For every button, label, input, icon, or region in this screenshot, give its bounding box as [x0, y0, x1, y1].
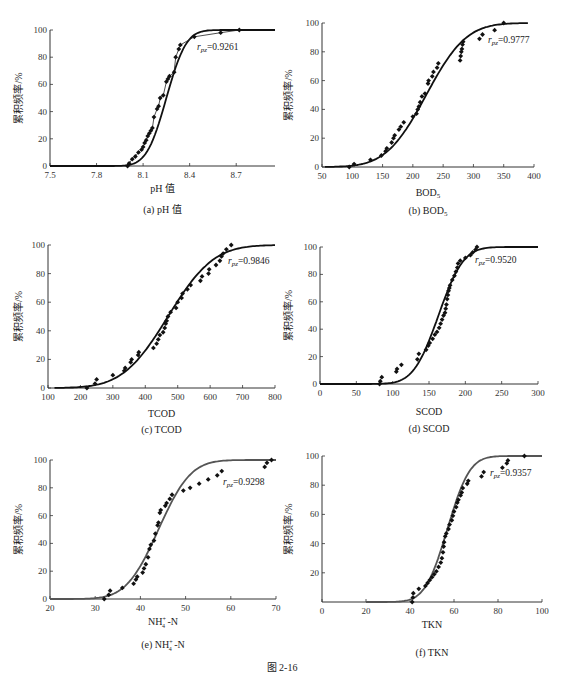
data-point-diamond-icon [214, 263, 219, 268]
data-point-diamond-icon [444, 302, 449, 307]
x-axis-label: BOD5 [416, 187, 441, 200]
y-tick-label: 20 [38, 566, 48, 576]
correlation-annotation: rpz=0.9777 [488, 35, 530, 47]
data-point-diamond-icon [94, 377, 99, 382]
data-point-diamond-icon [440, 556, 445, 561]
x-tick-label: 700 [236, 392, 250, 402]
data-point-diamond-icon [198, 278, 203, 283]
y-tick-label: 100 [306, 451, 320, 461]
data-point-diamond-icon [440, 317, 445, 322]
y-tick-label: 0 [313, 379, 318, 389]
x-tick-label: 60 [450, 606, 460, 616]
data-point-diamond-icon [110, 373, 115, 378]
data-point-diamond-icon [229, 243, 234, 248]
figure-canvas: 0204060801007.57.88.18.48.7rpz=0.9261累积频… [0, 0, 564, 688]
correlation-annotation: rpz=0.9298 [223, 477, 265, 489]
x-tick-label: 200 [406, 171, 420, 181]
y-tick-label: 40 [308, 324, 318, 334]
x-tick-label: 40 [136, 603, 146, 613]
x-tick-label: 100 [41, 392, 55, 402]
y-tick-label: 20 [36, 354, 46, 364]
data-point-diamond-icon [219, 469, 224, 474]
chart-panel-f: 20406080100020406080100rpz=0.9357累积频率/%T… [282, 451, 549, 659]
y-axis-label: 累积频率/% [282, 290, 294, 341]
x-tick-label: 500 [171, 392, 185, 402]
x-tick-label: 50 [181, 603, 191, 613]
fitted-cdf-curve [320, 247, 538, 384]
x-tick-label: 100 [535, 606, 549, 616]
x-tick-label: 40 [406, 606, 416, 616]
panel-caption: (f) TKN [416, 647, 449, 659]
y-tick-label: 80 [308, 269, 318, 279]
x-axis-label: TCOD [148, 408, 175, 419]
data-point-diamond-icon [443, 306, 448, 311]
x-tick-label: 100 [346, 171, 360, 181]
chart-panel-c: 020406080100100200300400500600700800rpz=… [12, 240, 282, 436]
data-point-diamond-icon [435, 65, 440, 70]
data-point-diamond-icon [389, 140, 394, 145]
y-tick-label: 100 [34, 25, 48, 35]
y-tick-label: 40 [310, 104, 320, 114]
y-axis-label: 累积频率/% [12, 504, 24, 555]
panel-caption: (b) BOD5 [409, 205, 448, 218]
y-tick-label: 80 [36, 269, 46, 279]
data-point-diamond-icon [161, 330, 166, 335]
y-tick-label: 60 [38, 79, 48, 89]
data-point-diamond-icon [410, 600, 415, 605]
y-tick-label: 60 [310, 76, 320, 86]
x-tick-label: 150 [376, 171, 390, 181]
x-tick-label: 8.7 [231, 170, 243, 180]
x-tick-label: 200 [459, 388, 473, 398]
data-point-diamond-icon [162, 326, 167, 331]
x-tick-label: 7.8 [91, 170, 103, 180]
panel-caption: (e) NH+4 -N [141, 639, 185, 652]
x-tick-label: 30 [91, 603, 101, 613]
x-axis-label: pH 值 [150, 182, 175, 194]
data-point-diamond-icon [522, 454, 527, 459]
data-point-diamond-icon [480, 32, 485, 37]
data-point-diamond-icon [217, 258, 222, 263]
data-point-diamond-icon [479, 474, 484, 479]
y-tick-label: 40 [38, 538, 48, 548]
x-tick-label: 80 [494, 606, 504, 616]
x-axis-label: SCOD [416, 406, 443, 417]
data-point-diamond-icon [143, 562, 148, 567]
data-point-diamond-icon [176, 47, 181, 52]
data-point-diamond-icon [131, 581, 136, 586]
y-tick-label: 80 [310, 47, 320, 57]
x-tick-label: 0 [320, 606, 325, 616]
data-point-diamond-icon [140, 570, 145, 575]
data-point-diamond-icon [262, 465, 267, 470]
x-tick-label: 50 [352, 388, 362, 398]
x-tick-label: 20 [46, 603, 56, 613]
data-point-diamond-icon [152, 115, 157, 120]
x-tick-label: 350 [497, 171, 511, 181]
x-tick-label: 800 [268, 392, 282, 402]
correlation-annotation: rpz=0.9846 [228, 256, 270, 268]
data-point-diamond-icon [481, 470, 486, 475]
data-point-diamond-icon [477, 36, 482, 41]
chart-panels: 0204060801007.57.88.18.48.7rpz=0.9261累积频… [12, 18, 549, 659]
data-point-diamond-icon [437, 325, 442, 330]
y-axis-label: 累积频率/% [12, 291, 24, 342]
chart-panel-e: 020406080100203040506070rpz=0.9298累积频率/%… [12, 455, 281, 652]
y-tick-label: 60 [36, 297, 46, 307]
data-point-diamond-icon [430, 74, 435, 79]
x-tick-label: 300 [467, 171, 481, 181]
data-point-diamond-icon [197, 481, 202, 486]
x-tick-label: 7.5 [44, 170, 56, 180]
y-tick-label: 60 [310, 509, 320, 519]
chart-panel-b: 02040608010050100150200250300350400rpz=0… [282, 18, 541, 218]
x-tick-label: 200 [74, 392, 88, 402]
y-tick-label: 40 [38, 107, 48, 117]
chart-panel-d: 020406080100050100150200250300rpz=0.9520… [282, 242, 545, 435]
y-tick-label: 80 [310, 480, 320, 490]
data-point-diamond-icon [416, 351, 421, 356]
data-point-diamond-icon [269, 458, 274, 463]
data-point-diamond-icon [108, 588, 113, 593]
data-point-diamond-icon [458, 58, 463, 63]
x-tick-label: 300 [106, 392, 120, 402]
y-tick-label: 40 [36, 326, 46, 336]
x-tick-label: 600 [203, 392, 217, 402]
data-point-diamond-icon [265, 460, 270, 465]
